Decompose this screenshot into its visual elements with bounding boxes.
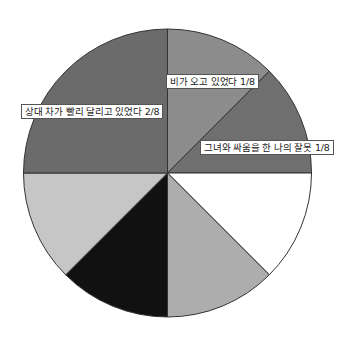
slice-label-my-fault: 그녀와 싸움을 한 나의 잘못 1/8 (200, 140, 334, 155)
pie-chart: 비가 오고 있었다 1/8 그녀와 싸움을 한 나의 잘못 1/8 상대 차가 … (0, 0, 341, 338)
slice-label-rain: 비가 오고 있었다 1/8 (166, 74, 259, 89)
pie-chart-canvas (0, 0, 341, 338)
pie-slice-6 (24, 29, 168, 173)
slice-label-other-car: 상대 차가 빨리 달리고 있었다 2/8 (21, 104, 163, 119)
